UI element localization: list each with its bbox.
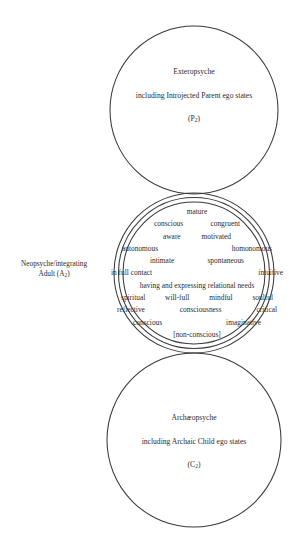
neopsyche-word: autonomous [122, 243, 158, 255]
archaeopsyche-symbol-suffix: ) [198, 460, 201, 469]
exteropsyche-symbol: (P2) [110, 115, 278, 124]
neopsyche-word: aware [163, 231, 181, 243]
archaeopsyche-name: Archæopsyche [110, 414, 278, 422]
neopsyche-word: intuitive [258, 267, 283, 279]
neopsyche-label-prefix: Adult (A [38, 269, 64, 278]
neopsyche-word: conscious [154, 218, 183, 230]
exteropsyche-name: Exteropsyche [110, 68, 278, 76]
neopsyche-label-line2: Adult (A2) [2, 269, 106, 280]
neopsyche-word: consciousness [180, 304, 222, 316]
neopsyche-word: congruent [210, 218, 240, 230]
exteropsyche-description: including Introjected Parent ego states [110, 92, 278, 100]
neopsyche-word-non-conscious: [non-conscious] [108, 329, 286, 341]
archaeopsyche-description: including Archaic Child ego states [110, 438, 278, 446]
archaeopsyche-symbol: (C2) [110, 461, 278, 470]
neopsyche-word: having and expressing relational needs [108, 280, 286, 292]
neopsyche-word: spontaneous [207, 255, 244, 267]
neopsyche-label-suffix: ) [67, 269, 69, 278]
neopsyche-word: critical [256, 304, 277, 316]
neopsyche-word: imaginative [226, 317, 261, 329]
exteropsyche-symbol-suffix: ) [197, 114, 200, 123]
neopsyche-word-list: mature consciouscongruent awaremotivated… [108, 206, 286, 341]
neopsyche-word: intimate [150, 255, 174, 267]
neopsyche-word: soulful [252, 292, 273, 304]
diagram-text-layer: Exteropsyche including Introjected Paren… [0, 0, 294, 558]
neopsyche-label: Neopsyche/integrating Adult (A2) [2, 259, 106, 280]
neopsyche-word: reflective [117, 304, 145, 316]
neopsyche-word: in full contact [111, 267, 152, 279]
neopsyche-word: homonomous [232, 243, 272, 255]
neopsyche-word: spiritual [121, 292, 145, 304]
exteropsyche-text-block: Exteropsyche including Introjected Paren… [110, 68, 278, 124]
neopsyche-word: will-full [165, 292, 189, 304]
neopsyche-label-line1: Neopsyche/integrating [2, 259, 106, 269]
neopsyche-word: conscious [133, 317, 162, 329]
archaeopsyche-text-block: Archæopsyche including Archaic Child ego… [110, 414, 278, 470]
neopsyche-word: motivated [201, 231, 231, 243]
neopsyche-word: mindful [209, 292, 232, 304]
exteropsyche-symbol-prefix: (P [188, 114, 195, 123]
neopsyche-word: mature [108, 206, 286, 218]
ego-state-diagram: Exteropsyche including Introjected Paren… [0, 0, 294, 558]
